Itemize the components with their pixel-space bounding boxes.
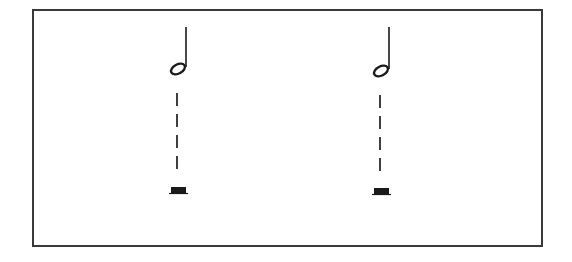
column-2 [372, 27, 391, 195]
half-note-icon [372, 27, 390, 79]
half-note-icon [169, 27, 187, 77]
half-rest-icon [372, 188, 391, 195]
music-diagram [0, 0, 572, 262]
column-1 [169, 27, 188, 194]
half-rest-icon [169, 187, 188, 194]
